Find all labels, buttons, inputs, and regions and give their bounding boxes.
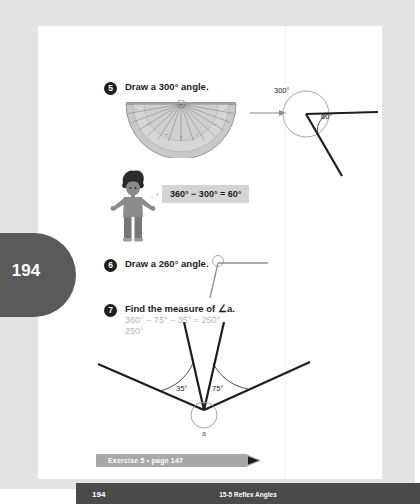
- question-6-text: Draw a 260° angle.: [125, 258, 209, 269]
- svg-text:150: 150: [146, 123, 151, 126]
- angle-a-diagram: [96, 322, 361, 437]
- svg-text:120: 120: [164, 133, 169, 136]
- question-6-number: 6: [104, 259, 117, 272]
- page-number-tab: 194: [0, 233, 76, 317]
- footer-chapter-title: 15-5 Reflex Angles: [76, 491, 420, 498]
- angle-a-left-label: 35°: [176, 384, 187, 393]
- svg-text:170: 170: [134, 108, 139, 111]
- question-5-number: 5: [104, 82, 117, 95]
- equation-highlight-box: 360° − 300° = 60°: [162, 185, 249, 203]
- speech-bubble-dot-large: [156, 193, 159, 196]
- exercise-banner-label: Exercise 5 • page 147: [108, 457, 183, 464]
- angle-a-right-label: 75°: [212, 384, 223, 393]
- student-character-illustration: [110, 169, 156, 243]
- angle-300-acute-label: 60°: [321, 112, 332, 121]
- question-7-number: 7: [104, 304, 117, 317]
- question-7-text: Find the measure of ∠a.: [125, 303, 235, 314]
- angle-a-vertex-label: a: [202, 430, 206, 437]
- question-5-text: Draw a 300° angle.: [125, 81, 209, 92]
- angle-300-reflex-label: 300°: [274, 86, 290, 95]
- protractor-illustration: 170 150 120 90 60 30 10: [124, 100, 238, 158]
- question-6-row: 6 Draw a 260° angle.: [104, 258, 209, 272]
- angle-260-diagram: [206, 252, 276, 302]
- textbook-page-sheet: 194 5 Draw a 300° angle.: [38, 26, 382, 479]
- question-5-row: 5 Draw a 300° angle.: [104, 81, 209, 95]
- speech-bubble-dot-small: [151, 196, 153, 198]
- page-number-tab-label: 194: [4, 261, 48, 281]
